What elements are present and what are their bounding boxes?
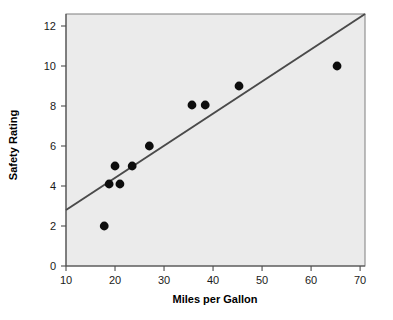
data-point — [235, 82, 244, 91]
y-tick-label: 4 — [50, 180, 56, 192]
y-tick-label: 6 — [50, 140, 56, 152]
x-axis-title: Miles per Gallon — [173, 293, 258, 305]
y-tick-label: 0 — [50, 260, 56, 272]
x-axis-ticks: 10203040506070 — [60, 266, 366, 286]
data-point — [145, 142, 154, 151]
data-point — [333, 62, 342, 71]
y-tick-label: 2 — [50, 220, 56, 232]
y-tick-label: 8 — [50, 100, 56, 112]
y-tick-label: 12 — [44, 20, 56, 32]
plot-svg: 10203040506070 024681012 Miles per Gallo… — [0, 0, 393, 320]
data-point — [116, 180, 125, 189]
x-tick-label: 70 — [354, 274, 366, 286]
data-point — [188, 101, 197, 110]
x-tick-label: 50 — [256, 274, 268, 286]
y-tick-label: 10 — [44, 60, 56, 72]
scatter-chart: 10203040506070 024681012 Miles per Gallo… — [0, 0, 393, 320]
y-axis-title: Safety Rating — [7, 110, 19, 180]
data-point — [201, 101, 210, 110]
x-tick-label: 40 — [207, 274, 219, 286]
x-tick-label: 10 — [60, 274, 72, 286]
x-tick-label: 30 — [158, 274, 170, 286]
plot-area-background — [66, 14, 365, 266]
data-point — [105, 180, 114, 189]
data-point — [111, 162, 120, 171]
x-tick-label: 60 — [305, 274, 317, 286]
data-point — [100, 222, 109, 231]
x-tick-label: 20 — [109, 274, 121, 286]
data-point — [128, 162, 137, 171]
y-axis-ticks: 024681012 — [44, 20, 66, 272]
